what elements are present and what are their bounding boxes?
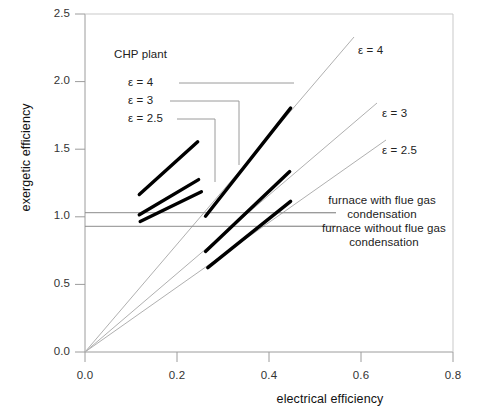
annotation-furnace-with-condensation: furnace with flue gas condensation	[318, 194, 446, 221]
y-axis-title: exergetic efficiency	[19, 77, 34, 237]
y-tick-label-2.0: 2.0	[46, 74, 70, 88]
y-tick-label-0.5: 0.5	[46, 277, 70, 291]
annotation-group-epsilon-3: ε = 3	[128, 94, 153, 108]
axis-frame	[85, 14, 453, 352]
x-axis-ticks	[85, 352, 453, 362]
x-tick-label-0.0: 0.0	[65, 369, 105, 383]
annotation-group-epsilon-2p5: ε = 2.5	[128, 112, 163, 126]
furnace-without-line-2: condensation	[349, 236, 419, 248]
annotation-ray-epsilon-4: ε = 4	[358, 44, 383, 58]
y-tick-label-0.0: 0.0	[46, 345, 70, 359]
y-tick-label-1.0: 1.0	[46, 209, 70, 223]
x-tick-label-0.2: 0.2	[157, 369, 197, 383]
x-tick-label-0.6: 0.6	[341, 369, 381, 383]
annotation-ray-epsilon-3: ε = 3	[382, 107, 407, 121]
chp-segments-group-a	[139, 142, 201, 222]
annotation-ray-epsilon-2p5: ε = 2.5	[382, 144, 417, 158]
furnace-with-line-1: furnace with flue gas	[328, 194, 436, 206]
annotation-chp-plant: CHP plant	[114, 48, 167, 62]
furnace-without-line-1: furnace without flue gas	[322, 222, 446, 234]
leader-group-eps-2p5	[177, 119, 215, 182]
furnace-reference-lines	[85, 213, 336, 227]
y-axis-ticks	[75, 14, 85, 352]
chp-group-b-epsilon-4	[206, 108, 291, 216]
x-axis-title: electrical efficiency	[240, 392, 420, 407]
y-tick-label-1.5: 1.5	[46, 142, 70, 156]
chart-figure: 2.5 2.0 1.5 1.0 0.5 0.0 0.0 0.2 0.4 0.6 …	[0, 0, 477, 420]
x-tick-label-0.8: 0.8	[433, 369, 473, 383]
annotation-group-epsilon-4: ε = 4	[128, 76, 153, 90]
ray-epsilon-4	[85, 37, 354, 352]
x-tick-label-0.4: 0.4	[249, 369, 289, 383]
furnace-with-line-2: condensation	[347, 208, 417, 220]
y-tick-label-2.5: 2.5	[46, 7, 70, 21]
annotation-furnace-without-condensation: furnace without flue gas condensation	[314, 222, 454, 249]
